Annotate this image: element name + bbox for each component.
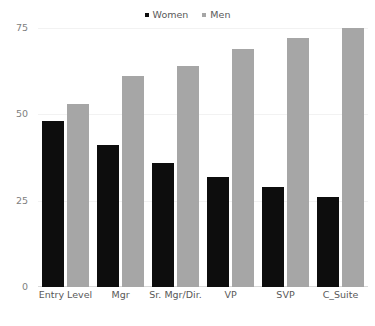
y-tick-label-50: 50 xyxy=(16,110,28,120)
bar-chart: Women Men 75 50 25 0 xyxy=(0,0,375,326)
bar-men-sr-mgr-dir[interactable] xyxy=(177,66,199,287)
legend-item-women[interactable]: Women xyxy=(145,10,189,20)
x-axis: Entry Level Mgr Sr. Mgr/Dir. VP SVP C_Su… xyxy=(38,290,368,310)
legend-label-women: Women xyxy=(153,10,189,20)
bar-men-vp[interactable] xyxy=(232,49,254,287)
bar-group-vp xyxy=(203,28,258,287)
bar-women-entry-level[interactable] xyxy=(42,121,64,287)
x-tick-label-sr-mgr-dir: Sr. Mgr/Dir. xyxy=(149,290,201,300)
y-tick-label-0: 0 xyxy=(22,282,28,292)
y-axis: 75 50 25 0 xyxy=(0,28,34,287)
bar-men-c-suite[interactable] xyxy=(342,28,364,287)
x-tick-label-mgr: Mgr xyxy=(111,290,129,300)
y-tick-label-25: 25 xyxy=(16,196,28,206)
bar-women-sr-mgr-dir[interactable] xyxy=(152,163,174,287)
bar-men-svp[interactable] xyxy=(287,38,309,287)
plot-area xyxy=(38,28,368,287)
legend-label-men: Men xyxy=(210,10,230,20)
x-tick-label-vp: VP xyxy=(224,290,236,300)
bar-group-sr-mgr-dir xyxy=(148,28,203,287)
bar-women-svp[interactable] xyxy=(262,187,284,287)
legend-swatch-women-square-marker xyxy=(145,13,149,17)
bar-women-vp[interactable] xyxy=(207,177,229,288)
chart-legend: Women Men xyxy=(0,6,375,24)
bar-women-c-suite[interactable] xyxy=(317,197,339,287)
bar-men-mgr[interactable] xyxy=(122,76,144,287)
bar-group-c-suite xyxy=(313,28,368,287)
y-tick-label-75: 75 xyxy=(16,23,28,33)
bar-group-entry-level xyxy=(38,28,93,287)
bar-women-mgr[interactable] xyxy=(97,145,119,287)
legend-item-men[interactable]: Men xyxy=(202,10,230,20)
bar-group-mgr xyxy=(93,28,148,287)
legend-swatch-men-square-marker xyxy=(202,13,206,17)
x-tick-label-c-suite: C_Suite xyxy=(323,290,359,300)
x-tick-label-entry-level: Entry Level xyxy=(39,290,92,300)
x-tick-label-svp: SVP xyxy=(276,290,294,300)
bar-men-entry-level[interactable] xyxy=(67,104,89,287)
bar-group-svp xyxy=(258,28,313,287)
